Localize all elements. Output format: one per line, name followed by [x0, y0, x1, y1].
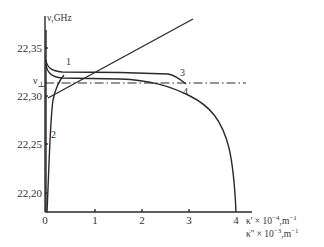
- curve-label-4: 4: [183, 86, 188, 97]
- nu-perp-label: ν⊥: [33, 75, 45, 89]
- curve-2: [47, 75, 64, 212]
- x-tick-label: 3: [186, 214, 192, 226]
- x-tick-label: 4: [233, 214, 239, 226]
- y-ticks: 22,35 22,30 22,25 22,20: [17, 42, 48, 199]
- x-axis-title-1: κ' × 10−4,m−1: [246, 214, 297, 226]
- curve-4: [46, 64, 236, 212]
- x-tick-label: 1: [92, 214, 98, 226]
- chart: 22,35 22,30 22,25 22,20 0 1 2 3 4 ν,GHz …: [0, 0, 324, 247]
- y-tick-label: 22,25: [17, 138, 42, 150]
- y-tick-label: 22,35: [17, 42, 42, 54]
- curve-label-2: 2: [51, 129, 56, 140]
- y-axis-title: ν,GHz: [47, 13, 72, 23]
- x-axis-title-2: κ'' × 10−3,m−1: [246, 227, 299, 239]
- curve-label-3: 3: [180, 67, 185, 78]
- x-tick-label: 2: [139, 214, 145, 226]
- x-tick-label: 0: [42, 214, 48, 226]
- y-tick-label: 22,30: [17, 90, 42, 102]
- curve-label-1: 1: [66, 56, 71, 67]
- y-tick-label: 22,20: [17, 187, 42, 199]
